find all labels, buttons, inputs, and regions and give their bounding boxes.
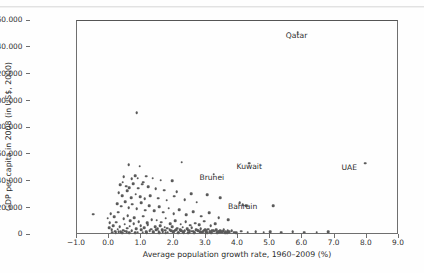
scatter-point <box>139 196 142 199</box>
scatter-point <box>193 232 196 235</box>
point-label-uae: UAE <box>341 164 357 172</box>
scatter-point <box>240 230 243 233</box>
scatter-point <box>130 230 133 233</box>
y-tick-mark <box>26 153 30 154</box>
x-axis-title: Average population growth rate, 1960–200… <box>76 250 398 259</box>
x-tick-label: 9.0 <box>392 239 404 246</box>
scatter-point <box>148 229 151 232</box>
scatter-point <box>123 223 126 226</box>
scatter-point <box>132 182 135 185</box>
scatter-point <box>254 231 257 234</box>
scatter-point <box>134 193 137 196</box>
scatter-point <box>167 207 170 210</box>
scatter-point <box>151 177 154 180</box>
scatter-point <box>137 187 140 190</box>
scatter-point <box>136 231 139 234</box>
point-label-qatar: Qatar <box>286 32 307 40</box>
figure-root: GDP per capita in 2008 (in US$, 2000) 02… <box>0 0 424 273</box>
scatter-point <box>119 184 122 187</box>
y-tick-label: 120.000 <box>0 70 26 77</box>
scatter-point <box>128 186 131 189</box>
scatter-point <box>92 213 95 216</box>
y-tick-label: 140.000 <box>0 43 26 50</box>
scatter-point <box>156 219 159 222</box>
scatter-point <box>291 231 294 234</box>
scatter-point <box>180 161 183 164</box>
scatter-point <box>235 231 238 234</box>
scatter-point <box>162 211 165 214</box>
scatter-point <box>212 229 215 232</box>
scatter-point <box>143 226 146 229</box>
scatter-point <box>182 230 185 233</box>
scatter-point <box>219 196 222 199</box>
y-tick-label: 160.000 <box>0 16 26 23</box>
scatter-point <box>142 215 145 218</box>
y-tick-mark <box>26 73 30 74</box>
scatter-point <box>171 180 174 183</box>
scatter-point <box>120 205 123 208</box>
y-tick-label: 40.000 <box>0 177 26 184</box>
scatter-point <box>127 164 130 167</box>
scatter-point <box>216 232 219 235</box>
scatter-point <box>173 195 176 198</box>
x-tick-label: 3.0 <box>199 239 211 246</box>
scatter-point <box>200 231 203 234</box>
scatter-point <box>158 206 161 209</box>
y-axis-title-text: GDP per capita in 2008 (in US$, 2000) <box>5 62 14 211</box>
scatter-point <box>122 218 125 221</box>
y-tick-label: 80.000 <box>0 123 26 130</box>
scatter-point <box>214 223 217 226</box>
scatter-point <box>158 231 161 234</box>
scatter-point <box>169 222 172 225</box>
scatter-point <box>117 211 120 214</box>
scatter-point <box>246 231 249 234</box>
scatter-point <box>118 192 121 195</box>
scatter-point <box>190 192 193 195</box>
y-tick-mark <box>26 207 30 208</box>
scatter-point <box>125 185 128 188</box>
scatter-point <box>176 190 179 193</box>
scatter-point <box>139 225 142 228</box>
x-tick-label: 7.0 <box>328 239 340 246</box>
scatter-point <box>141 183 144 186</box>
scatter-point <box>262 231 265 234</box>
scatter-point <box>327 231 330 234</box>
scatter-point <box>364 162 367 165</box>
point-label-brunei: Brunei <box>199 174 224 182</box>
y-tick-mark <box>26 234 30 235</box>
scatter-point <box>129 225 132 228</box>
point-label-kuwait: Kuwait <box>237 163 262 171</box>
scatter-point <box>135 228 138 231</box>
x-tick-label: 1.0 <box>135 239 147 246</box>
scatter-point <box>185 214 188 217</box>
scatter-point <box>108 227 111 230</box>
scatter-point <box>200 215 203 218</box>
scatter-point <box>110 212 113 215</box>
scatter-point <box>210 231 213 234</box>
scatter-point <box>316 231 319 234</box>
scatter-point <box>198 224 201 227</box>
point-label-bahrain: Bahrain <box>228 203 257 211</box>
x-tick-label: 2.0 <box>167 239 179 246</box>
scatter-point <box>126 190 129 193</box>
scatter-point <box>113 216 116 219</box>
scatter-point <box>153 210 156 213</box>
scatter-point <box>145 175 148 178</box>
scatter-point <box>155 188 158 191</box>
scatter-point <box>149 194 152 197</box>
y-tick-label: 20.000 <box>0 204 26 211</box>
scatter-point <box>209 225 212 228</box>
y-tick-mark <box>26 20 30 21</box>
y-tick-label: 0 <box>18 230 26 237</box>
scatter-point <box>127 214 130 217</box>
scatter-point <box>160 221 163 224</box>
scatter-point <box>165 199 168 202</box>
scatter-point <box>147 186 150 189</box>
scatter-point <box>178 208 181 211</box>
scatter-point <box>114 231 117 234</box>
scatter-point <box>129 220 132 223</box>
scatter-point <box>184 198 187 201</box>
scatter-point <box>135 111 138 114</box>
scatter-point <box>164 217 167 220</box>
scatter-point <box>138 165 141 168</box>
